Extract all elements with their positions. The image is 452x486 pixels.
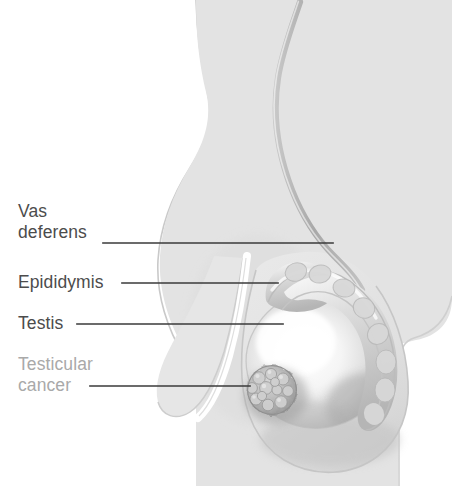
label-epididymis-line1: Epididymis bbox=[18, 272, 104, 292]
label-vas-deferens: Vasdeferens bbox=[18, 201, 87, 243]
anatomy-illustration bbox=[0, 0, 452, 486]
label-epididymis: Epididymis bbox=[18, 272, 104, 293]
label-testicular-cancer-line2: cancer bbox=[18, 375, 71, 395]
label-testis-line1: Testis bbox=[18, 313, 63, 333]
label-testis: Testis bbox=[18, 313, 63, 334]
label-vas-deferens-line2: deferens bbox=[18, 222, 87, 242]
label-vas-deferens-line1: Vas bbox=[18, 201, 47, 221]
label-testicular-cancer: Testicularcancer bbox=[18, 354, 93, 396]
label-testicular-cancer-line1: Testicular bbox=[18, 354, 93, 374]
